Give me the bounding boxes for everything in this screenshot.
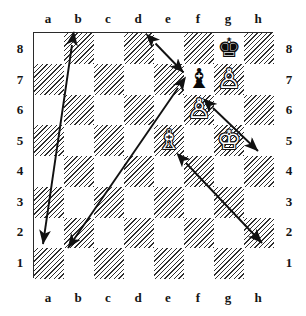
black-king[interactable]: ♚ [214, 33, 244, 64]
black-king-glyph: ♚ [217, 34, 241, 61]
board-square-b8[interactable] [64, 33, 94, 64]
file-label-bottom-b: b [63, 291, 93, 305]
board-square-e8[interactable] [154, 33, 184, 64]
board-square-c8[interactable] [94, 33, 124, 64]
rank-label-right-6: 6 [281, 103, 297, 117]
file-label-top-b: b [63, 12, 93, 26]
white-bishop[interactable]: ♗ [154, 125, 184, 156]
board-square-g2[interactable] [214, 218, 244, 249]
rank-label-right-7: 7 [281, 73, 297, 87]
rank-label-right-3: 3 [281, 195, 297, 209]
board-square-c2[interactable] [94, 218, 124, 249]
board-square-e4[interactable] [154, 156, 184, 187]
rank-label-left-1: 1 [12, 256, 28, 270]
board-square-e2[interactable] [154, 218, 184, 249]
white-pawn-f6-glyph: ♙ [187, 95, 211, 122]
board-square-a8[interactable] [34, 33, 64, 64]
board-square-a1[interactable] [34, 248, 64, 279]
rank-label-left-3: 3 [12, 195, 28, 209]
board-square-h2[interactable] [244, 218, 274, 249]
board-square-g6[interactable] [214, 95, 244, 126]
file-label-bottom-e: e [153, 291, 183, 305]
rank-label-right-4: 4 [281, 164, 297, 178]
rank-label-left-7: 7 [12, 73, 28, 87]
board-square-a3[interactable] [34, 187, 64, 218]
file-label-bottom-d: d [123, 291, 153, 305]
board-square-d6[interactable] [124, 95, 154, 126]
white-pawn-g7[interactable]: ♙ [214, 64, 244, 95]
board-square-b1[interactable] [64, 248, 94, 279]
board-square-c4[interactable] [94, 156, 124, 187]
board-square-c3[interactable] [94, 187, 124, 218]
white-king-glyph: ♔ [217, 126, 241, 153]
rank-label-left-6: 6 [12, 103, 28, 117]
board-square-b4[interactable] [64, 156, 94, 187]
board-square-h1[interactable] [244, 248, 274, 279]
board-square-c5[interactable] [94, 125, 124, 156]
board-square-d3[interactable] [124, 187, 154, 218]
board-square-a4[interactable] [34, 156, 64, 187]
board-square-e3[interactable] [154, 187, 184, 218]
board-square-f1[interactable] [184, 248, 214, 279]
file-label-top-d: d [123, 12, 153, 26]
board-square-c6[interactable] [94, 95, 124, 126]
board-square-g4[interactable] [214, 156, 244, 187]
board-square-e7[interactable] [154, 64, 184, 95]
board-square-d7[interactable] [124, 64, 154, 95]
file-label-top-h: h [243, 12, 273, 26]
rank-label-left-2: 2 [12, 225, 28, 239]
board-square-d1[interactable] [124, 248, 154, 279]
black-bishop[interactable]: ♝ [184, 64, 214, 95]
board-square-h6[interactable] [244, 95, 274, 126]
board-square-h5[interactable] [244, 125, 274, 156]
board-square-d4[interactable] [124, 156, 154, 187]
board-square-b2[interactable] [64, 218, 94, 249]
black-bishop-glyph: ♝ [187, 65, 211, 92]
board-square-f8[interactable] [184, 33, 214, 64]
board-square-b6[interactable] [64, 95, 94, 126]
board-square-h3[interactable] [244, 187, 274, 218]
chess-board[interactable]: ♚♝♙♙♗♔ [33, 32, 273, 278]
board-square-b7[interactable] [64, 64, 94, 95]
board-square-c7[interactable] [94, 64, 124, 95]
board-square-f5[interactable] [184, 125, 214, 156]
file-label-bottom-a: a [33, 291, 63, 305]
board-square-a7[interactable] [34, 64, 64, 95]
board-square-e6[interactable] [154, 95, 184, 126]
board-square-f4[interactable] [184, 156, 214, 187]
board-square-a6[interactable] [34, 95, 64, 126]
rank-label-left-5: 5 [12, 134, 28, 148]
board-square-h4[interactable] [244, 156, 274, 187]
board-square-h7[interactable] [244, 64, 274, 95]
board-square-h8[interactable] [244, 33, 274, 64]
board-square-g1[interactable] [214, 248, 244, 279]
board-square-d5[interactable] [124, 125, 154, 156]
board-square-b5[interactable] [64, 125, 94, 156]
file-label-bottom-f: f [183, 291, 213, 305]
board-square-d2[interactable] [124, 218, 154, 249]
rank-label-right-8: 8 [281, 42, 297, 56]
white-bishop-glyph: ♗ [157, 126, 181, 153]
board-square-f3[interactable] [184, 187, 214, 218]
rank-label-left-8: 8 [12, 42, 28, 56]
chess-diagram: a b c d e f g h a b c d e f g h 8 7 6 5 … [0, 0, 306, 316]
file-label-top-f: f [183, 12, 213, 26]
file-label-top-c: c [93, 12, 123, 26]
white-pawn-f6[interactable]: ♙ [184, 95, 214, 126]
board-square-b3[interactable] [64, 187, 94, 218]
rank-label-right-5: 5 [281, 134, 297, 148]
white-pawn-g7-glyph: ♙ [217, 65, 241, 92]
file-label-top-a: a [33, 12, 63, 26]
board-square-a2[interactable] [34, 218, 64, 249]
white-king[interactable]: ♔ [214, 125, 244, 156]
board-square-d8[interactable] [124, 33, 154, 64]
rank-label-right-2: 2 [281, 225, 297, 239]
file-label-top-e: e [153, 12, 183, 26]
rank-label-right-1: 1 [281, 256, 297, 270]
board-square-a5[interactable] [34, 125, 64, 156]
file-label-bottom-h: h [243, 291, 273, 305]
board-square-g3[interactable] [214, 187, 244, 218]
board-square-c1[interactable] [94, 248, 124, 279]
board-square-f2[interactable] [184, 218, 214, 249]
board-square-e1[interactable] [154, 248, 184, 279]
